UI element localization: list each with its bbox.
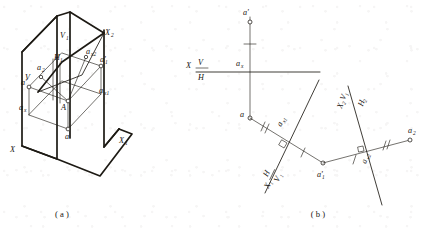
label-point-a: a bbox=[65, 132, 69, 141]
svg-text:2: 2 bbox=[42, 67, 45, 73]
point-a2 bbox=[39, 75, 42, 78]
plane-h-outline bbox=[22, 129, 132, 176]
label-plane-v1: V 1 bbox=[60, 31, 69, 41]
svg-text:a: a bbox=[99, 86, 103, 95]
right-angle-mark-2 bbox=[358, 146, 364, 152]
plane-v1-edge-right bbox=[70, 12, 104, 33]
svg-text:a: a bbox=[19, 103, 23, 112]
label-b-a: a bbox=[240, 110, 244, 119]
svg-text:2: 2 bbox=[362, 98, 369, 103]
point-a-prime bbox=[27, 85, 31, 89]
label-axis-x: X bbox=[9, 145, 16, 154]
point-b-a-prime bbox=[248, 20, 252, 24]
svg-text:a: a bbox=[37, 63, 41, 72]
label-point-ax: a x bbox=[19, 103, 27, 113]
svg-text:2: 2 bbox=[111, 32, 114, 38]
label-b-plane-v: V bbox=[198, 58, 204, 67]
label-point-a2: a 2 bbox=[37, 63, 45, 73]
label-b-a1-prime: a' 1 bbox=[317, 170, 325, 180]
svg-text:1: 1 bbox=[322, 174, 325, 180]
svg-text:X: X bbox=[104, 28, 111, 37]
panel-b-group: X V H a' a a x a' 1 a x1 X 1 bbox=[185, 8, 416, 219]
svg-text:x: x bbox=[23, 107, 27, 113]
point-b-a2 bbox=[408, 138, 412, 142]
caption-b: ( b ) bbox=[311, 209, 325, 219]
label-axis-x2: X 2 bbox=[104, 28, 114, 38]
svg-text:a: a bbox=[408, 126, 412, 135]
label-point-ax2: a x2 bbox=[86, 47, 96, 57]
label-b-plane-h2: H 2 bbox=[356, 97, 368, 109]
technical-drawing-svg: V V 1 X X 1 X 2 H 1 A a a' a bbox=[0, 0, 425, 234]
svg-text:1: 1 bbox=[105, 59, 108, 65]
svg-text:2: 2 bbox=[413, 130, 416, 136]
svg-text:1: 1 bbox=[66, 35, 69, 41]
label-b-plane-h: H bbox=[197, 73, 205, 82]
svg-text:x: x bbox=[240, 63, 244, 69]
caption-a: ( a ) bbox=[55, 209, 69, 219]
svg-text:a: a bbox=[86, 47, 90, 56]
label-point-a1-prime: a' 1 bbox=[100, 55, 108, 65]
label-b-ax: a x bbox=[236, 59, 244, 69]
label-b-axis-x: X bbox=[185, 61, 192, 70]
svg-text:a: a bbox=[236, 59, 240, 68]
svg-text:x2: x2 bbox=[90, 51, 96, 57]
label-axis-x1: X 1 bbox=[118, 136, 128, 146]
label-b-ax1: a x1 bbox=[275, 115, 289, 129]
panel-a-group: V V 1 X X 1 X 2 H 1 A a a' a bbox=[9, 12, 132, 219]
tick-equal-2 bbox=[301, 148, 305, 157]
tick-equal-4 bbox=[353, 155, 356, 164]
point-a bbox=[66, 127, 70, 131]
tick-equal-3 bbox=[383, 140, 390, 150]
plane-right-bottom bbox=[104, 129, 119, 147]
point-A bbox=[66, 99, 70, 103]
label-plane-h1: H 1 bbox=[53, 53, 63, 63]
plane-h1-outline bbox=[38, 30, 104, 92]
point-a1-prime bbox=[99, 64, 103, 68]
svg-text:x1: x1 bbox=[103, 90, 109, 96]
label-b-axis-x1-cluster: X 1 H V 1 bbox=[256, 165, 285, 194]
right-angle-mark-1 bbox=[279, 140, 287, 148]
label-b-a2: a 2 bbox=[408, 126, 416, 136]
label-point-A: A bbox=[60, 103, 67, 112]
svg-text:1: 1 bbox=[60, 57, 63, 63]
plane-v-edge bbox=[22, 16, 57, 52]
figure-root: V V 1 X X 1 X 2 H 1 A a a' a bbox=[0, 0, 425, 234]
projector-a-to-a1prime bbox=[250, 118, 323, 163]
label-point-a-prime: a' bbox=[21, 78, 27, 87]
svg-text:X: X bbox=[118, 136, 125, 145]
svg-text:1: 1 bbox=[344, 92, 351, 97]
svg-text:1: 1 bbox=[125, 140, 128, 146]
label-b-axis-x2-cluster: X 2 V 1 bbox=[335, 91, 351, 111]
label-b-a-prime: a' bbox=[243, 8, 249, 17]
